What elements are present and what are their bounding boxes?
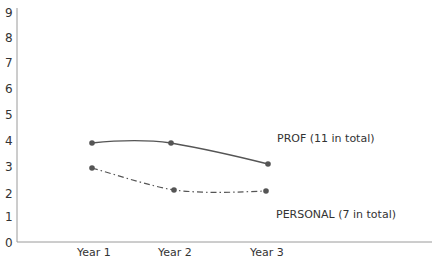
x-tick-year-1: Year 1 <box>76 246 111 259</box>
y-tick-1: 1 <box>5 210 13 224</box>
data-point <box>89 140 95 146</box>
y-tick-6: 6 <box>5 82 13 96</box>
series-label-personal: PERSONAL (7 in total) <box>276 208 396 221</box>
series-label-prof: PROF (11 in total) <box>277 132 375 145</box>
data-point <box>89 165 95 171</box>
y-tick-4: 4 <box>5 134 13 148</box>
y-tick-7: 7 <box>5 56 13 70</box>
data-point <box>171 187 177 193</box>
data-point <box>263 188 269 194</box>
y-tick-5: 5 <box>5 108 13 122</box>
y-tick-0: 0 <box>5 236 13 250</box>
series-prof <box>89 140 271 167</box>
data-point <box>168 140 174 146</box>
x-tick-labels: Year 1 Year 2 Year 3 <box>76 246 284 259</box>
y-tick-9: 9 <box>5 6 13 20</box>
series-personal <box>89 165 269 194</box>
data-point <box>265 161 271 167</box>
line-chart: 0 1 2 3 4 5 6 7 8 9 Year 1 Year 2 Year 3… <box>0 0 437 265</box>
y-tick-2: 2 <box>5 187 13 201</box>
y-tick-labels: 0 1 2 3 4 5 6 7 8 9 <box>5 6 13 250</box>
y-tick-3: 3 <box>5 160 13 174</box>
y-tick-8: 8 <box>5 31 13 45</box>
x-tick-year-2: Year 2 <box>157 246 192 259</box>
x-tick-year-3: Year 3 <box>249 246 284 259</box>
